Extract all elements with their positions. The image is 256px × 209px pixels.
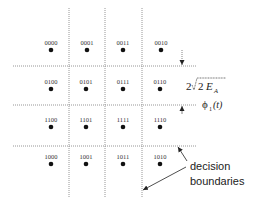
constellation-points: 0000000100110010010001010111011011001101…: [45, 39, 168, 166]
spacing-prefix: 2: [186, 80, 192, 92]
point-label: 1001: [80, 153, 93, 160]
point-label: 1101: [80, 116, 93, 123]
constellation-point: 1010: [154, 153, 167, 166]
constellation-point: 1110: [154, 116, 167, 129]
spacing-var: E: [205, 80, 213, 92]
spacing-formula: 2 2 E A: [186, 78, 226, 94]
constellation-point: 1011: [117, 153, 130, 166]
phi-subscript: 1: [209, 106, 212, 112]
constellation-point: 0010: [155, 39, 168, 52]
phi-argument: (t): [213, 99, 223, 111]
point-dot-icon: [49, 87, 54, 92]
constellation-point: 0001: [81, 39, 94, 52]
constellation-point: 0011: [117, 39, 130, 52]
point-label: 0010: [155, 39, 168, 46]
point-dot-icon: [49, 125, 54, 130]
point-label: 0110: [154, 78, 167, 85]
annotation-arrow-vertical: [143, 167, 186, 190]
constellation-point: 0101: [80, 78, 93, 91]
point-label: 0100: [45, 78, 58, 85]
point-label: 0111: [117, 78, 130, 85]
point-dot-icon: [49, 162, 54, 167]
point-dot-icon: [49, 48, 54, 53]
point-dot-icon: [158, 125, 163, 130]
point-dot-icon: [158, 162, 163, 167]
constellation-point: 1000: [45, 153, 58, 166]
basis-function-label: ϕ 1 (t): [202, 98, 223, 112]
vertical-decision-boundaries: [69, 8, 142, 197]
point-dot-icon: [121, 125, 126, 130]
point-dot-icon: [85, 48, 90, 53]
point-label: 0001: [81, 39, 94, 46]
point-dot-icon: [121, 48, 126, 53]
spacing-subscript: A: [213, 87, 218, 94]
point-label: 1011: [117, 153, 130, 160]
spacing-radicand: 2: [198, 80, 204, 92]
point-label: 0000: [45, 39, 58, 46]
phi-symbol: ϕ: [202, 98, 208, 110]
constellation-point: 1101: [80, 116, 93, 129]
annotation-arrow-horizontal: [178, 147, 187, 161]
constellation-point: 0110: [154, 78, 167, 91]
point-dot-icon: [158, 87, 163, 92]
point-label: 0011: [117, 39, 130, 46]
annotation-line-2: boundaries: [190, 175, 245, 187]
point-dot-icon: [121, 87, 126, 92]
point-label: 1110: [154, 116, 167, 123]
point-label: 1000: [45, 153, 58, 160]
point-label: 1100: [45, 116, 58, 123]
point-label: 0101: [80, 78, 93, 85]
point-label: 1111: [117, 116, 129, 123]
point-dot-icon: [121, 162, 126, 167]
qam-constellation-diagram: 0000000100110010010001010111011011001101…: [0, 0, 256, 209]
constellation-point: 0111: [117, 78, 130, 91]
constellation-point: 0100: [45, 78, 58, 91]
point-dot-icon: [84, 87, 89, 92]
point-dot-icon: [84, 125, 89, 130]
point-label: 1010: [154, 153, 167, 160]
point-dot-icon: [84, 162, 89, 167]
constellation-point: 0000: [45, 39, 58, 52]
annotation-line-1: decision: [190, 160, 230, 172]
constellation-point: 1100: [45, 116, 58, 129]
constellation-point: 1111: [117, 116, 129, 129]
point-dot-icon: [159, 48, 164, 53]
constellation-point: 1001: [80, 153, 93, 166]
